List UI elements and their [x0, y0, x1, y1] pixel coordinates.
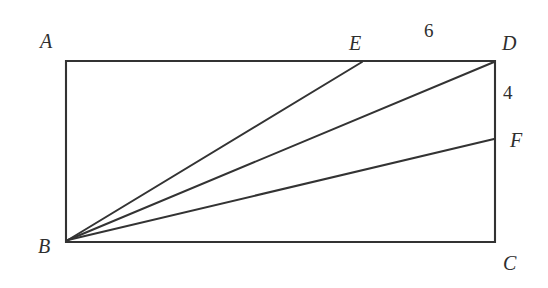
point-label-e: E [349, 33, 361, 53]
vertex-label-a: A [40, 31, 52, 51]
geometry-figure: A B C D E F 6 4 [0, 0, 548, 288]
vertex-label-b: B [38, 236, 50, 256]
point-label-f: F [510, 130, 522, 150]
measure-label-right: 4 [503, 83, 513, 102]
measure-label-top: 6 [424, 21, 434, 40]
figure-canvas [0, 0, 548, 288]
vertex-label-c: C [503, 253, 516, 273]
segment-b-to-e [68, 62, 362, 240]
segment-b-to-d [68, 62, 494, 240]
vertex-label-d: D [502, 33, 516, 53]
segment-b-to-f [68, 139, 494, 240]
